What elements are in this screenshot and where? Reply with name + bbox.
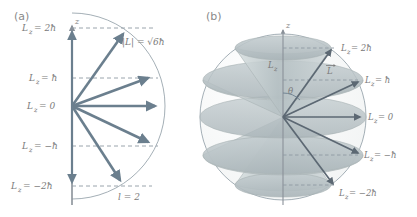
z-axis-label-b: z <box>285 21 291 30</box>
level-label-b-2h: L z = 2ħ <box>340 43 372 56</box>
svg-text:L: L <box>367 112 374 122</box>
svg-text:L: L <box>340 43 347 53</box>
svg-text:L: L <box>21 141 28 151</box>
svg-text:= 0: = 0 <box>39 101 55 111</box>
svg-text:z: z <box>33 106 38 114</box>
svg-text:= −ħ: = −ħ <box>374 150 396 160</box>
svg-text:z: z <box>28 146 33 154</box>
svg-text:L: L <box>326 66 333 76</box>
physics-figure: z L z = 2ħ L z = ħ <box>0 0 417 217</box>
svg-text:L: L <box>364 75 371 85</box>
panel-a: z L z = 2ħ L z = ħ <box>10 10 165 205</box>
svg-text:L: L <box>267 60 274 70</box>
quantum-number-label: l = 2 <box>118 192 140 202</box>
svg-text:= ħ: = ħ <box>375 75 390 85</box>
svg-text:= −ħ: = −ħ <box>34 141 58 151</box>
svg-text:L: L <box>10 181 17 191</box>
svg-text:z: z <box>17 186 22 194</box>
svg-text:L: L <box>21 23 28 33</box>
vector-m2 <box>72 34 123 106</box>
level-label-0: L z = 0 <box>26 101 55 114</box>
inner-label-theta: θ <box>288 86 293 96</box>
level-label-neg2h: L z = −2ħ <box>10 181 52 194</box>
svg-text:L: L <box>28 73 35 83</box>
svg-text:= −2ħ: = −2ħ <box>349 188 377 198</box>
svg-text:z: z <box>273 65 278 73</box>
svg-text:= 2ħ: = 2ħ <box>351 43 372 53</box>
svg-text:z: z <box>28 28 33 36</box>
svg-text:L: L <box>338 188 345 198</box>
svg-text:= 2ħ: = 2ħ <box>34 23 56 33</box>
panel-b: z L z L θ <box>200 10 396 205</box>
panel-b-label: (b) <box>206 10 222 23</box>
level-label-2h: L z = 2ħ <box>21 23 56 36</box>
figure-root: z L z = 2ħ L z = ħ <box>0 0 417 217</box>
svg-text:L: L <box>363 150 370 160</box>
level-label-neg1h: L z = −ħ <box>21 141 58 154</box>
z-axis-label-a: z <box>74 17 80 26</box>
panel-a-label: (a) <box>14 10 29 23</box>
svg-text:= −2ħ: = −2ħ <box>23 181 52 191</box>
svg-text:z: z <box>35 78 40 86</box>
level-label-b-1h: L z = ħ <box>364 75 390 88</box>
level-label-1h: L z = ħ <box>28 73 57 86</box>
magnitude-label: |L| = √6ħ <box>122 37 165 48</box>
level-label-b-0: L z = 0 <box>367 112 394 125</box>
svg-text:L: L <box>26 101 33 111</box>
svg-text:= 0: = 0 <box>378 112 394 122</box>
level-label-b-neg2h: L z = −2ħ <box>338 188 377 201</box>
svg-text:= ħ: = ħ <box>41 73 57 83</box>
level-label-b-neg1h: L z = −ħ <box>363 150 396 163</box>
